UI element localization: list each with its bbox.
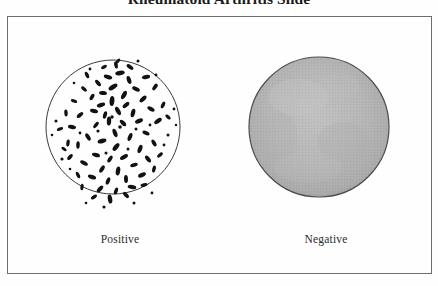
figure-title-clip: Rheumatoid Arthritis Slide xyxy=(0,0,438,9)
figure-title: Rheumatoid Arthritis Slide xyxy=(0,0,438,8)
figure-frame: Positive xyxy=(7,16,432,274)
negative-suspension-texture xyxy=(249,57,389,197)
caption-negative: Negative xyxy=(266,233,386,245)
figure-root: Rheumatoid Arthritis Slide xyxy=(0,0,438,286)
